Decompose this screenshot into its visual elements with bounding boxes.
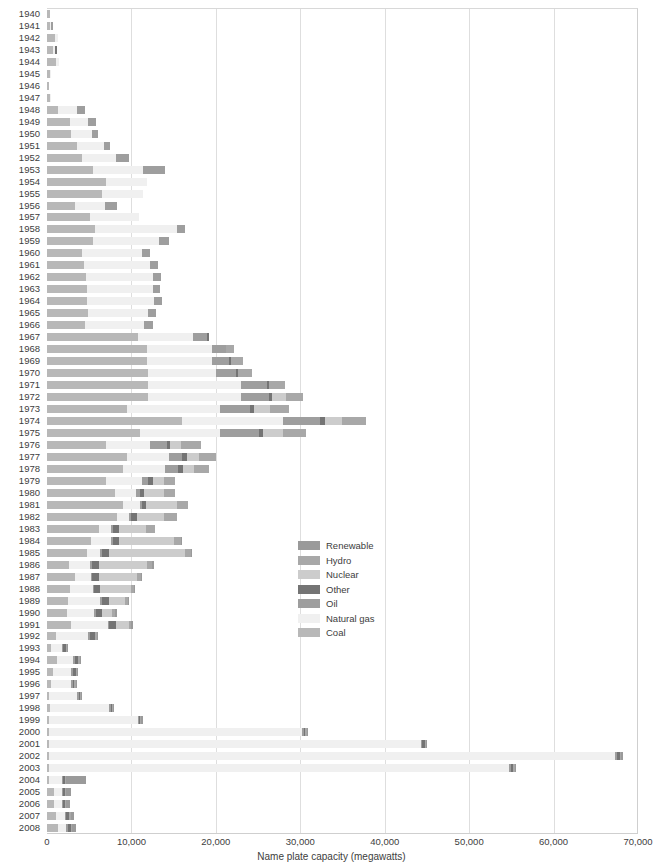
bar-segment-natural-gas [71, 130, 91, 138]
bar-segment-natural-gas [102, 190, 143, 198]
y-tick-label: 1986 [19, 560, 40, 570]
bar-segment-hydro [177, 501, 188, 509]
bar-row [47, 225, 185, 233]
bar-segment-coal [47, 824, 58, 832]
bar-row [47, 58, 59, 66]
bar-segment-oil [216, 369, 236, 377]
bar-segment-natural-gas [99, 525, 111, 533]
bar-row [47, 513, 177, 521]
legend-item[interactable]: Other [298, 585, 375, 600]
bar-row [47, 561, 154, 569]
legend-item[interactable]: Coal [298, 628, 375, 643]
bar-segment-natural-gas [123, 465, 165, 473]
bar-segment-oil [212, 357, 229, 365]
y-tick-label: 1941 [19, 21, 40, 31]
bar-segment-coal [47, 333, 138, 341]
bar-segment-coal [47, 118, 70, 126]
y-tick-label: 1974 [19, 416, 40, 426]
bar-segment-nuclear [254, 405, 270, 413]
bar-segment-natural-gas [50, 704, 110, 712]
y-tick-label: 1947 [19, 93, 40, 103]
bar-segment-coal [47, 800, 54, 808]
y-tick-label: 1969 [19, 356, 40, 366]
legend-item[interactable]: Oil [298, 599, 375, 614]
bar-segment-natural-gas [115, 489, 137, 497]
bar-segment-oil [104, 142, 110, 150]
legend-item[interactable]: Natural gas [298, 614, 375, 629]
bar-segment-nuclear [144, 489, 164, 497]
bar-segment-oil [116, 154, 129, 162]
legend-swatch-icon [298, 570, 320, 579]
bar-segment-renewable [97, 632, 98, 640]
y-tick-label: 1968 [19, 344, 40, 354]
bar-row [47, 345, 234, 353]
x-tick-label: 0 [44, 836, 49, 847]
bar-segment-oil [143, 166, 165, 174]
bar-row [47, 34, 58, 42]
bar-segment-oil [144, 321, 152, 329]
bar-segment-natural-gas [56, 58, 59, 66]
bar-segment-coal [47, 285, 87, 293]
bar-segment-natural-gas [49, 728, 302, 736]
bar-segment-oil [51, 22, 52, 30]
bar-segment-oil [165, 465, 178, 473]
bar-segment-renewable [76, 680, 77, 688]
y-tick-label: 1964 [19, 296, 40, 306]
y-tick-label: 1982 [19, 512, 40, 522]
bar-row [47, 573, 142, 581]
bar-segment-natural-gas [148, 381, 241, 389]
bar-segment-coal [47, 621, 71, 629]
y-tick-label: 1965 [19, 308, 40, 318]
bar-segment-hydro [181, 441, 200, 449]
y-tick-label: 2006 [19, 799, 40, 809]
bar-segment-hydro [238, 369, 252, 377]
bar-row [47, 10, 50, 18]
bar-row [47, 213, 139, 221]
bar-row [47, 465, 209, 473]
y-tick-label: 2008 [19, 823, 40, 833]
y-tick-label: 1955 [19, 189, 40, 199]
bar-segment-coal [47, 489, 115, 497]
bar-segment-coal [47, 441, 106, 449]
bar-segment-natural-gas [70, 585, 93, 593]
bar-segment-nuclear [116, 621, 129, 629]
bar-segment-coal [47, 213, 90, 221]
bar-row [47, 824, 76, 832]
legend-item[interactable]: Nuclear [298, 570, 375, 585]
bar-row [47, 46, 57, 54]
y-tick-label: 1988 [19, 584, 40, 594]
bar-segment-natural-gas [69, 561, 90, 569]
bar-segment-natural-gas [49, 692, 78, 700]
bar-segment-coal [47, 465, 123, 473]
bar-row [47, 106, 85, 114]
bar-segment-natural-gas [50, 94, 52, 102]
bar-row [47, 585, 135, 593]
bar-segment-nuclear [263, 429, 282, 437]
bar-segment-natural-gas [75, 573, 91, 581]
bar-segment-oil [241, 381, 267, 389]
bar-segment-hydro [174, 537, 181, 545]
bar-segment-oil [142, 477, 149, 485]
bar-segment-natural-gas [87, 549, 101, 557]
legend-item[interactable]: Renewable [298, 541, 375, 556]
legend-item[interactable]: Hydro [298, 556, 375, 571]
bar-segment-renewable [77, 668, 78, 676]
bar-segment-oil [193, 333, 207, 341]
bar-segment-renewable [141, 716, 142, 724]
y-tick-label: 1993 [19, 643, 40, 653]
y-tick-label: 2004 [19, 775, 40, 785]
bar-segment-renewable [141, 573, 142, 581]
bar-row [47, 752, 623, 760]
y-tick-label: 1996 [19, 679, 40, 689]
y-tick-label: 1981 [19, 500, 40, 510]
bar-segment-natural-gas [84, 261, 150, 269]
bar-segment-natural-gas [106, 477, 141, 485]
y-tick-label: 1951 [19, 141, 40, 151]
y-tick-label: 1943 [19, 45, 40, 55]
y-tick-label: 1962 [19, 272, 40, 282]
y-tick-label: 1994 [19, 655, 40, 665]
bar-segment-renewable [115, 609, 116, 617]
bar-segment-natural-gas [147, 345, 213, 353]
bar-segment-coal [47, 309, 88, 317]
x-axis-tick-labels: 010,00020,00030,00040,00050,00060,00070,… [0, 836, 663, 850]
